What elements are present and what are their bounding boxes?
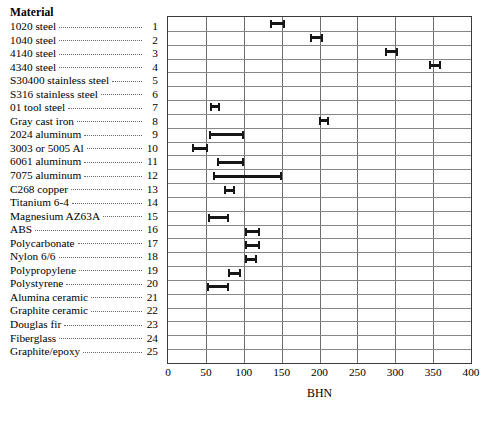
gridline-horizontal [168,238,471,239]
legend-item-label: Polycarbonate [10,237,78,251]
legend-item: Graphite/epoxy25 [10,345,158,359]
range-bar-low-cap [429,61,431,69]
legend-item: Polystyrene20 [10,277,158,291]
range-bar-high-cap [396,48,398,56]
legend-item: S30400 stainless steel5 [10,74,158,88]
gridline-vertical [357,17,358,363]
legend-title: Material [10,6,158,19]
legend-item: 3003 or 5005 Al10 [10,142,158,156]
legend-item-label: Magnesium AZ63A [10,210,103,224]
gridline-horizontal [168,211,471,212]
legend-item-label: 4340 steel [10,61,59,75]
legend-item-number: 8 [142,115,158,129]
legend-leader-dots [59,54,142,55]
legend-item-number: 24 [142,332,158,346]
legend-item-number: 5 [142,74,158,88]
legend-item: 7075 aluminum12 [10,169,158,183]
legend-item-label: 1020 steel [10,20,59,34]
legend-leader-dots [84,162,142,163]
legend-item-label: ABS [10,223,35,237]
gridline-vertical [282,17,283,363]
range-bar [217,161,244,164]
range-bar [210,105,220,108]
legend-leader-dots [68,108,142,109]
legend-item: Titanium 6-414 [10,196,158,210]
legend-item: C268 copper13 [10,183,158,197]
gridline-vertical [395,17,396,363]
range-bar-high-cap [227,214,229,222]
gridline-vertical [244,17,245,363]
legend-item: Magnesium AZ63A15 [10,210,158,224]
legend-item-label: Gray cast iron [10,115,77,129]
legend-item-number: 6 [142,88,158,102]
legend-leader-dots [59,338,142,339]
legend-item: 1020 steel1 [10,20,158,34]
legend-item-number: 23 [142,318,158,332]
legend-item-label: S30400 stainless steel [10,74,112,88]
gridline-vertical [433,17,434,363]
range-bar-high-cap [242,131,244,139]
range-bar-low-cap [245,241,247,249]
range-bar-low-cap [310,34,312,42]
legend-item: Polycarbonate17 [10,237,158,251]
x-axis-tick-label: 150 [273,366,290,379]
gridline-horizontal [168,335,471,336]
gridline-horizontal [168,266,471,267]
legend-item: 01 tool steel7 [10,101,158,115]
range-bar [429,64,441,67]
legend-item-number: 7 [142,101,158,115]
legend-item-number: 20 [142,277,158,291]
material-legend: Material 1020 steel11040 steel24140 stee… [10,6,158,359]
range-bar [245,230,260,233]
x-axis-tick-label: 200 [311,366,328,379]
range-bar [245,258,256,261]
range-bar-low-cap [245,255,247,263]
legend-item: Fiberglass24 [10,332,158,346]
legend-item-label: Fiberglass [10,332,59,346]
range-bar-high-cap [218,103,220,111]
x-axis-tick-label: 100 [235,366,252,379]
range-bar-high-cap [280,172,282,180]
gridline-horizontal [168,142,471,143]
legend-item-label: 2024 aluminum [10,128,84,142]
legend-item: S316 stainless steel6 [10,88,158,102]
x-axis-tick-label: 400 [463,366,480,379]
legend-item-number: 21 [142,291,158,305]
legend-leader-dots [78,243,142,244]
range-bar [192,147,208,150]
legend-item: Douglas fir23 [10,318,158,332]
legend-leader-dots [64,325,142,326]
gridline-horizontal [168,183,471,184]
legend-leader-dots [103,216,142,217]
legend-item-number: 11 [142,155,158,169]
legend-leader-dots [77,121,142,122]
legend-leader-dots [59,40,142,41]
legend-leader-dots [79,270,142,271]
range-bar-low-cap [210,103,212,111]
gridline-horizontal [168,280,471,281]
legend-item-number: 25 [142,345,158,359]
range-bar [310,36,323,39]
gridline-horizontal [168,86,471,87]
legend-item-number: 13 [142,183,158,197]
legend-item-number: 1 [142,20,158,34]
legend-leader-dots [59,257,142,258]
gridline-horizontal [168,294,471,295]
x-axis-tick-label: 350 [425,366,442,379]
legend-item-label: 1040 steel [10,34,59,48]
legend-leader-dots [59,67,142,68]
legend-leader-dots [91,311,142,312]
range-bar-low-cap [209,131,211,139]
legend-item: Nylon 6/618 [10,250,158,264]
gridline-horizontal [168,45,471,46]
gridline-horizontal [168,252,471,253]
gridline-horizontal [168,155,471,156]
legend-item-label: C268 copper [10,183,71,197]
legend-leader-dots [66,284,142,285]
legend-item-number: 16 [142,223,158,237]
legend-leader-dots [35,230,142,231]
legend-item-number: 15 [142,210,158,224]
range-bar-high-cap [327,117,329,125]
hardness-chart-figure: Material 1020 steel11040 steel24140 stee… [0,0,487,422]
legend-item: Alumina ceramic21 [10,291,158,305]
